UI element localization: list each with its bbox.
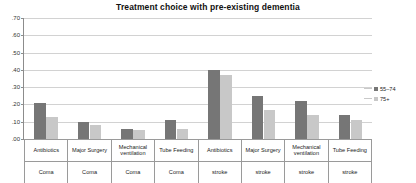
x-axis-category-cell: Mechanical ventilationstroke xyxy=(284,139,327,183)
bar xyxy=(339,115,351,139)
x-axis-category-cell: AntibioticsComa xyxy=(24,139,67,183)
x-axis-category-cell: Tube Feedingstroke xyxy=(328,139,372,183)
chart-title: Treatment choice with pre-existing demen… xyxy=(0,2,416,12)
x-axis-condition-label: Coma xyxy=(155,162,197,183)
x-axis-treatment-label: Mechanical ventilation xyxy=(285,139,327,162)
x-axis-category-cell: Major Surgerystroke xyxy=(241,139,284,183)
y-axis-tick-label: .50 xyxy=(0,50,20,56)
x-axis-condition-label: Coma xyxy=(112,162,154,183)
chart-legend: 55–7475+ xyxy=(374,84,416,104)
y-axis-tick-label: .40 xyxy=(0,67,20,73)
x-axis-condition-label: stroke xyxy=(242,162,284,183)
x-axis-condition-label: stroke xyxy=(199,162,241,183)
legend-item[interactable]: 75+ xyxy=(374,94,416,103)
bar xyxy=(264,110,276,139)
legend-item[interactable]: 55–74 xyxy=(374,84,416,93)
x-axis-category-cell: Tube FeedingComa xyxy=(154,139,197,183)
bar xyxy=(208,70,220,139)
bar xyxy=(78,122,90,139)
legend-label: 75+ xyxy=(380,96,390,102)
y-axis-tick-label: .00 xyxy=(0,136,20,142)
bar xyxy=(133,130,145,139)
legend-leader-line xyxy=(364,98,372,99)
y-axis-tick-label: .10 xyxy=(0,119,20,125)
bars-layer xyxy=(24,18,372,139)
x-axis-condition-label: stroke xyxy=(329,162,371,183)
bar xyxy=(121,129,133,139)
bar xyxy=(34,103,46,139)
x-axis-treatment-label: Tube Feeding xyxy=(155,139,197,162)
x-axis-treatment-label: Major Surgery xyxy=(68,139,110,162)
bar xyxy=(46,117,58,139)
x-axis-treatment-label: Antibiotics xyxy=(25,139,67,162)
legend-swatch-icon xyxy=(374,87,378,91)
legend-leader-line xyxy=(364,88,372,89)
bar xyxy=(90,125,102,139)
x-axis-category-cell: Major SurgeryComa xyxy=(67,139,110,183)
bar xyxy=(220,75,232,139)
y-axis-tick-label: .60 xyxy=(0,32,20,38)
bar xyxy=(295,101,307,139)
y-axis-tick-label: .30 xyxy=(0,84,20,90)
x-axis-category-cell: Mechanical ventilationComa xyxy=(111,139,154,183)
x-axis-condition-label: Coma xyxy=(25,162,67,183)
legend-swatch-icon xyxy=(374,97,378,101)
bar xyxy=(177,129,189,139)
legend-label: 55–74 xyxy=(380,86,396,92)
y-axis-tick-label: .20 xyxy=(0,101,20,107)
bar xyxy=(351,120,363,139)
x-axis-category-cell: Antibioticsstroke xyxy=(198,139,241,183)
bar xyxy=(307,115,319,139)
x-axis-treatment-label: Tube Feeding xyxy=(329,139,371,162)
x-axis-condition-label: Coma xyxy=(68,162,110,183)
x-axis-treatment-label: Major Surgery xyxy=(242,139,284,162)
x-axis-condition-label: stroke xyxy=(285,162,327,183)
x-axis-treatment-label: Mechanical ventilation xyxy=(112,139,154,162)
y-axis-tick-label: .70 xyxy=(0,15,20,21)
x-axis-treatment-label: Antibiotics xyxy=(199,139,241,162)
chart-container: Treatment choice with pre-existing demen… xyxy=(0,0,416,183)
bar xyxy=(165,120,177,139)
x-axis-category-table: AntibioticsComaMajor SurgeryComaMechanic… xyxy=(24,139,372,183)
bar xyxy=(252,96,264,139)
